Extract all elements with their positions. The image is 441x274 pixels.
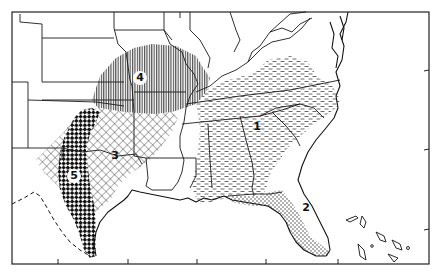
zone-1-label-text: 1 <box>253 120 261 133</box>
zone-label-2: 2 <box>302 201 310 214</box>
zone-label-5: 5 <box>67 169 81 183</box>
map-canvas: 4 3 5 1 2 <box>0 0 441 274</box>
bahamas-islands <box>346 216 410 262</box>
zone-2-area <box>230 190 330 256</box>
zone-label-4: 4 <box>133 71 147 85</box>
zone-label-3: 3 <box>111 149 119 162</box>
zone-5-label-text: 5 <box>70 169 78 182</box>
zone-1-area <box>192 56 340 204</box>
zone-label-1: 1 <box>253 120 261 133</box>
zone-4-label-text: 4 <box>136 71 144 84</box>
zone-3-area <box>36 108 178 220</box>
zone-2-label-text: 2 <box>302 201 310 214</box>
zone-3-label-text: 3 <box>111 149 119 162</box>
